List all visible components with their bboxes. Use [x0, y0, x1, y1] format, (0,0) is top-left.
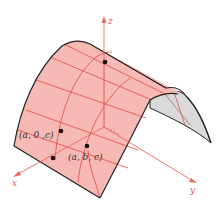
surface-end-cap	[150, 91, 211, 143]
x-axis-arrow-icon	[13, 171, 21, 177]
label-a0c: (a, 0 ,c)	[19, 130, 54, 140]
y-axis-arrow-icon	[189, 178, 197, 183]
surface-main	[14, 41, 186, 198]
x-axis-label: x	[12, 178, 17, 188]
z-axis-arrow-icon	[102, 16, 107, 23]
point-bottom	[51, 156, 56, 161]
point-abc	[85, 144, 90, 149]
label-abc: (a, b, c)	[68, 152, 103, 162]
z-axis-label: z	[107, 16, 113, 26]
parabolic-cylinder-figure: z x y (a, 0 ,c) (a, b, c)	[0, 0, 224, 210]
y-axis-label: y	[189, 185, 196, 195]
point-on-z-axis	[103, 60, 108, 65]
point-a0c	[59, 129, 64, 134]
